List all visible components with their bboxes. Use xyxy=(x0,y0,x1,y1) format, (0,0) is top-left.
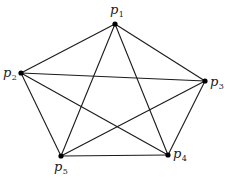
node-p3 xyxy=(202,78,207,83)
edge-p2-p5 xyxy=(21,73,61,156)
node-p4 xyxy=(165,152,170,157)
label-p4: p4 xyxy=(173,146,187,163)
node-p1 xyxy=(112,21,117,26)
edge-p1-p2 xyxy=(21,24,115,73)
label-p1: p1 xyxy=(110,2,124,19)
label-p5: p5 xyxy=(54,159,68,176)
edges-group xyxy=(21,24,205,156)
node-p5 xyxy=(58,153,63,158)
edge-p1-p4 xyxy=(115,24,168,155)
node-p2 xyxy=(18,70,23,75)
nodes-group xyxy=(18,21,207,158)
edge-p2-p3 xyxy=(21,73,205,81)
edge-p1-p5 xyxy=(61,24,115,156)
label-p3: p3 xyxy=(210,74,224,91)
label-p2: p2 xyxy=(3,65,17,82)
edge-p3-p5 xyxy=(61,81,205,156)
edge-p1-p3 xyxy=(115,24,205,81)
edge-p4-p5 xyxy=(61,155,168,156)
edge-p2-p4 xyxy=(21,73,168,155)
edge-p3-p4 xyxy=(168,81,205,155)
complete-graph-diagram: p1p2p3p4p5 xyxy=(0,0,227,183)
